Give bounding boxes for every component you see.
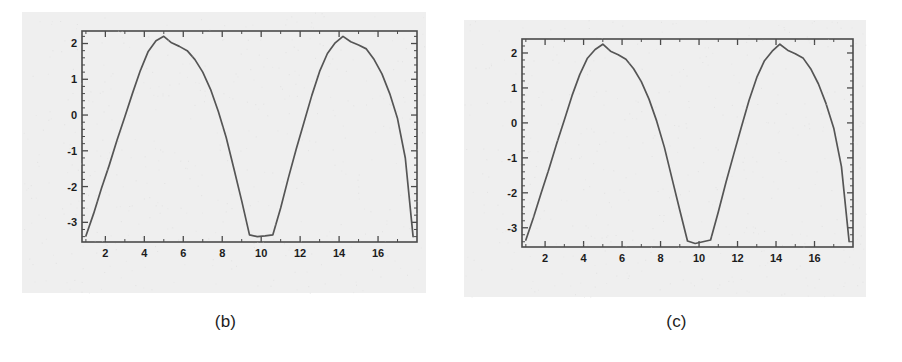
x-tick-label: 10: [693, 252, 705, 264]
plot-frame: [82, 31, 417, 242]
y-tick-label: 1: [71, 73, 77, 85]
panel-b-plot-area: 246810121416210-1-2-3: [56, 28, 420, 264]
data-series-line: [526, 44, 849, 243]
y-tick-label: -3: [507, 222, 517, 234]
panel-c-plot-svg: 246810121416210-1-2-3: [496, 36, 856, 269]
y-tick-label: 0: [71, 109, 77, 121]
panel-c-caption: (c): [451, 312, 902, 332]
x-tick-label: 6: [180, 247, 186, 259]
y-tick-label: 2: [71, 37, 77, 49]
axis-ticks: [82, 31, 417, 242]
figure-panel-b: 246810121416210-1-2-3 (b): [0, 0, 451, 362]
x-tick-label: 16: [808, 252, 820, 264]
x-tick-label: 4: [581, 252, 588, 264]
y-tick-label: -1: [507, 152, 517, 164]
x-tick-label: 8: [219, 247, 225, 259]
plot-frame: [522, 39, 853, 247]
y-tick-label: 0: [511, 117, 517, 129]
x-tick-label: 2: [542, 252, 548, 264]
y-tick-label: -1: [67, 145, 77, 157]
tick-labels: 246810121416210-1-2-3: [507, 47, 820, 264]
panel-b-plot-svg: 246810121416210-1-2-3: [56, 28, 420, 264]
x-tick-label: 4: [141, 247, 148, 259]
y-tick-label: 1: [511, 82, 517, 94]
y-tick-label: -2: [67, 181, 77, 193]
x-tick-label: 2: [102, 247, 108, 259]
x-tick-label: 6: [619, 252, 625, 264]
y-tick-label: 2: [511, 47, 517, 59]
x-tick-label: 14: [333, 247, 346, 259]
y-tick-label: -3: [67, 216, 77, 228]
x-tick-label: 10: [255, 247, 267, 259]
data-series-line: [86, 36, 413, 236]
figure-panel-c: 246810121416210-1-2-3 (c): [451, 0, 902, 362]
y-tick-label: -2: [507, 187, 517, 199]
x-tick-label: 16: [372, 247, 384, 259]
panel-b-caption: (b): [0, 312, 451, 332]
panel-c-plot-area: 246810121416210-1-2-3: [496, 36, 856, 269]
x-tick-label: 8: [657, 252, 663, 264]
x-tick-label: 12: [294, 247, 306, 259]
x-tick-label: 14: [770, 252, 783, 264]
x-tick-label: 12: [731, 252, 743, 264]
figure-root: 246810121416210-1-2-3 (b) 24681012141621…: [0, 0, 902, 362]
axis-ticks: [522, 39, 853, 247]
